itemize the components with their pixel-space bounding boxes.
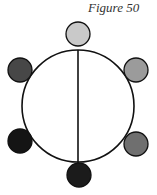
circle-diagram [0,0,157,195]
node-circle-upper-left [8,58,32,82]
node-circle-lower-right [124,132,148,156]
node-circle-upper-right [124,58,148,82]
node-circle-top [66,22,90,46]
node-circle-bottom [67,163,91,187]
node-circle-lower-left [8,129,32,153]
